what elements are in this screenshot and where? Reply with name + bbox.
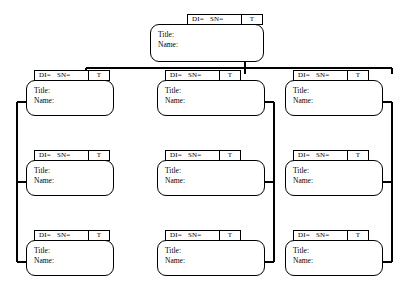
- node-left-3-body: Title: Name:: [26, 240, 114, 276]
- node-right-3-header-fields: DI= SN=: [294, 231, 347, 240]
- node-right-2-header: DI= SN= T: [293, 150, 369, 161]
- node-left-1-title-label: Title:: [34, 86, 113, 96]
- node-root-header-fields: DI= SN=: [188, 15, 241, 24]
- node-left-2-id-label: DI=: [39, 152, 51, 159]
- node-center-2-header: DI= SN= T: [165, 150, 241, 161]
- node-left-3-title-label: Title:: [34, 246, 113, 256]
- node-left-2-body: Title: Name:: [26, 160, 114, 196]
- node-left-1-header: DI= SN= T: [34, 70, 110, 81]
- node-center-1-header: DI= SN= T: [165, 70, 241, 81]
- node-left-2-type-cell: T: [88, 151, 109, 160]
- node-center-2-type-cell: T: [219, 151, 240, 160]
- node-root-body: Title: Name:: [150, 24, 264, 62]
- node-right-2-title-label: Title:: [293, 166, 382, 176]
- node-right-3-type-cell: T: [347, 231, 368, 240]
- node-right-3-id-label: DI=: [298, 232, 310, 239]
- node-right-1-header-fields: DI= SN=: [294, 71, 347, 80]
- node-center-3-name-label: Name:: [165, 256, 264, 266]
- node-left-1-header-fields: DI= SN=: [35, 71, 88, 80]
- node-center-3-id-label: DI=: [170, 232, 182, 239]
- node-root-id-label: DI=: [192, 16, 204, 23]
- node-center-1-type-cell: T: [219, 71, 240, 80]
- node-right-2-body: Title: Name:: [285, 160, 383, 196]
- node-center-2-serial-label: SN=: [188, 152, 202, 159]
- node-center-1-serial-label: SN=: [188, 72, 202, 79]
- node-right-3-serial-label: SN=: [316, 232, 330, 239]
- node-center-2-title-label: Title:: [165, 166, 264, 176]
- node-right-1-id-label: DI=: [298, 72, 310, 79]
- node-root-header: DI= SN= T: [187, 14, 263, 25]
- node-center-2-body: Title: Name:: [157, 160, 265, 196]
- node-right-2-serial-label: SN=: [316, 152, 330, 159]
- node-right-1-type-cell: T: [347, 71, 368, 80]
- node-center-1-title-label: Title:: [165, 86, 264, 96]
- node-left-3-header-fields: DI= SN=: [35, 231, 88, 240]
- node-left-1-serial-label: SN=: [57, 72, 71, 79]
- node-center-3-body: Title: Name:: [157, 240, 265, 276]
- node-right-2-name-label: Name:: [293, 176, 382, 186]
- node-left-3-serial-label: SN=: [57, 232, 71, 239]
- node-left-2-name-label: Name:: [34, 176, 113, 186]
- node-left-3-header: DI= SN= T: [34, 230, 110, 241]
- node-center-1-body: Title: Name:: [157, 80, 265, 116]
- node-right-1-serial-label: SN=: [316, 72, 330, 79]
- node-root-title-label: Title:: [158, 30, 263, 40]
- node-right-1-name-label: Name:: [293, 96, 382, 106]
- node-left-2-title-label: Title:: [34, 166, 113, 176]
- node-center-1-name-label: Name:: [165, 96, 264, 106]
- node-center-1-header-fields: DI= SN=: [166, 71, 219, 80]
- node-center-2-id-label: DI=: [170, 152, 182, 159]
- node-center-2-header-fields: DI= SN=: [166, 151, 219, 160]
- node-left-2-serial-label: SN=: [57, 152, 71, 159]
- node-left-3-type-cell: T: [88, 231, 109, 240]
- node-left-1-type-cell: T: [88, 71, 109, 80]
- node-left-3-id-label: DI=: [39, 232, 51, 239]
- node-right-1-body: Title: Name:: [285, 80, 383, 116]
- node-right-1-title-label: Title:: [293, 86, 382, 96]
- node-left-2-header: DI= SN= T: [34, 150, 110, 161]
- node-left-1-body: Title: Name:: [26, 80, 114, 116]
- node-right-3-name-label: Name:: [293, 256, 382, 266]
- node-center-3-title-label: Title:: [165, 246, 264, 256]
- node-left-2-header-fields: DI= SN=: [35, 151, 88, 160]
- node-root-type-cell: T: [241, 15, 262, 24]
- node-root-serial-label: SN=: [210, 16, 224, 23]
- node-right-2-type-cell: T: [347, 151, 368, 160]
- node-center-3-header-fields: DI= SN=: [166, 231, 219, 240]
- node-right-2-header-fields: DI= SN=: [294, 151, 347, 160]
- node-right-3-body: Title: Name:: [285, 240, 383, 276]
- node-center-1-id-label: DI=: [170, 72, 182, 79]
- node-right-3-title-label: Title:: [293, 246, 382, 256]
- node-left-1-id-label: DI=: [39, 72, 51, 79]
- node-right-2-id-label: DI=: [298, 152, 310, 159]
- node-center-3-serial-label: SN=: [188, 232, 202, 239]
- node-root-name-label: Name:: [158, 40, 263, 50]
- node-center-3-type-cell: T: [219, 231, 240, 240]
- node-left-3-name-label: Name:: [34, 256, 113, 266]
- node-center-3-header: DI= SN= T: [165, 230, 241, 241]
- node-left-1-name-label: Name:: [34, 96, 113, 106]
- node-right-1-header: DI= SN= T: [293, 70, 369, 81]
- org-chart-diagram: DI= SN= T Title: Name: DI= SN= T Title: …: [0, 0, 409, 290]
- node-right-3-header: DI= SN= T: [293, 230, 369, 241]
- node-center-2-name-label: Name:: [165, 176, 264, 186]
